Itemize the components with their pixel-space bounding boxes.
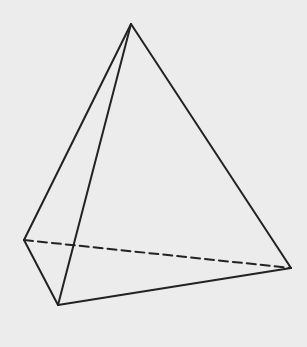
edges	[24, 24, 291, 305]
edge-left-front	[24, 240, 58, 305]
edge-apex-left	[24, 24, 131, 240]
edge-apex-right	[131, 24, 291, 268]
hidden-edge-left-right	[24, 240, 291, 268]
tetrahedron-diagram	[0, 0, 307, 347]
edge-front-right	[58, 268, 291, 305]
edge-apex-front	[58, 24, 131, 305]
